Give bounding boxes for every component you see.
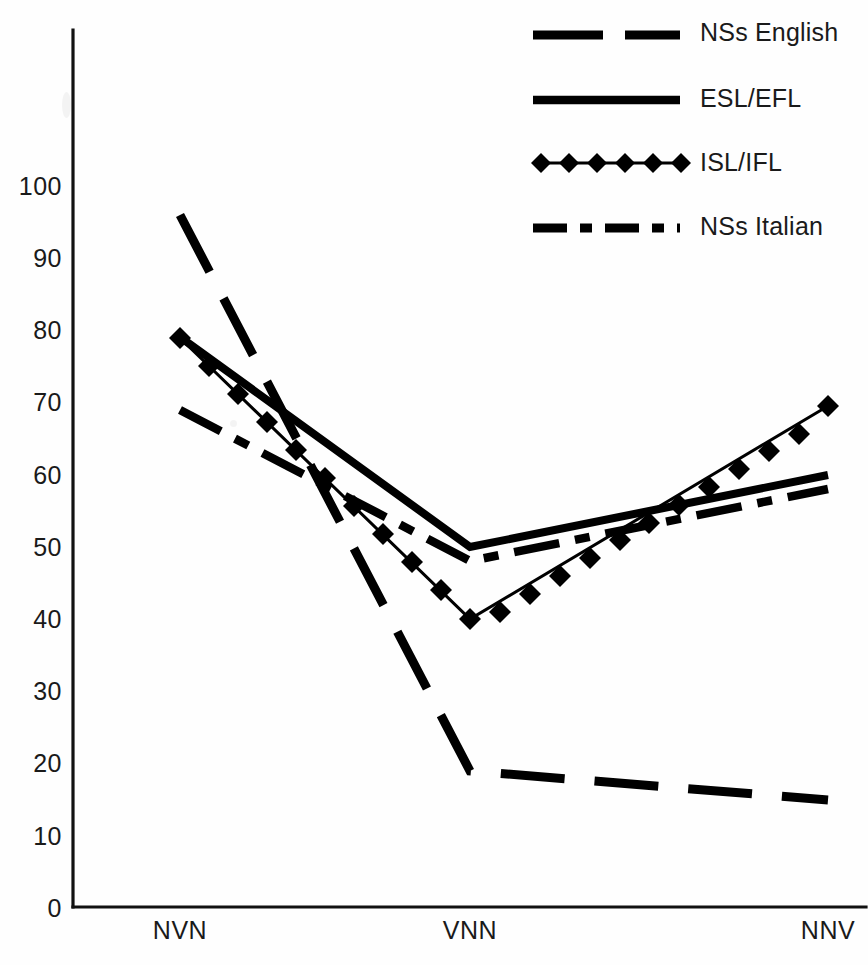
legend-swatch-isl-ifl <box>531 153 691 173</box>
series-line-isl-ifl <box>180 338 828 619</box>
legend-swatches <box>531 35 691 228</box>
line-chart-figure: 100 90 80 70 60 50 40 30 20 10 0 NVN VNN… <box>0 0 868 965</box>
series-line-esl-efl <box>180 337 828 547</box>
chart-canvas <box>0 0 868 965</box>
series-markers-isl-ifl <box>169 327 839 630</box>
data-series-group <box>169 215 839 800</box>
